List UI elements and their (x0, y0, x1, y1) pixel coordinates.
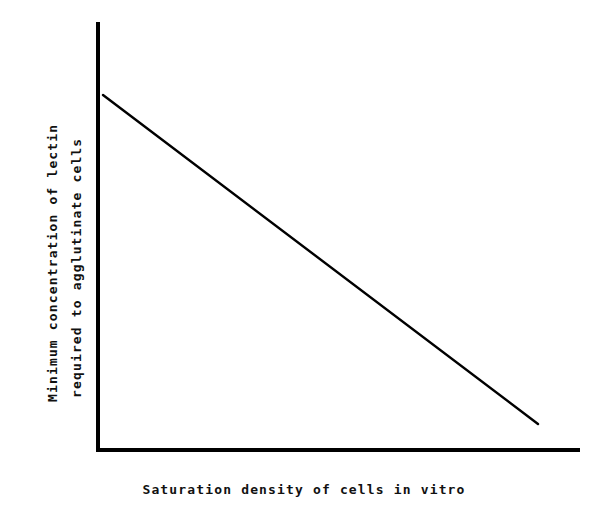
data-line-series-1 (103, 95, 538, 424)
chart-figure: Minimum concentration of lectin required… (0, 0, 608, 518)
y-axis-label-line-2: required to agglutinate cells (70, 138, 83, 398)
x-axis-label: Saturation density of cells in vitro (0, 482, 608, 497)
y-axis-label: Minimum concentration of lectin required… (0, 0, 95, 450)
y-axis-label-line-1: Minimum concentration of lectin (46, 124, 59, 402)
